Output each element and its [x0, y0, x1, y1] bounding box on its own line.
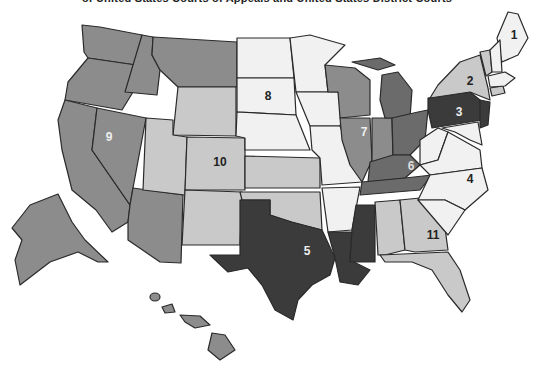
state-hawaii-2 [162, 304, 175, 313]
circuit-map: 1 2 3 4 5 6 7 8 9 10 11 [0, 0, 534, 372]
circuit-2-label: 2 [467, 74, 474, 88]
state-north-dakota [237, 38, 294, 78]
circuit-11-label: 11 [427, 228, 440, 242]
state-hawaii-4 [208, 333, 235, 360]
state-michigan [352, 58, 395, 70]
circuit-3-label: 3 [456, 105, 463, 119]
state-new-jersey [480, 100, 490, 128]
circuit-1-label: 1 [511, 28, 518, 42]
state-hawaii-3 [180, 315, 210, 328]
circuit-1-region[interactable] [488, 12, 528, 87]
state-connecticut [490, 86, 505, 96]
state-massachusetts [488, 72, 515, 87]
state-iowa [296, 92, 345, 126]
state-hawaii-1 [150, 293, 160, 301]
circuit-9-label: 9 [106, 130, 113, 144]
state-new-mexico [182, 190, 242, 245]
state-michigan-lower [380, 72, 412, 118]
state-kansas [245, 156, 320, 188]
state-montana [152, 37, 237, 87]
circuit-8-label: 8 [265, 89, 272, 103]
state-new-york [430, 55, 490, 100]
circuit-10-label: 10 [213, 155, 227, 169]
circuit-7-label: 7 [361, 125, 368, 139]
state-nebraska [236, 112, 310, 150]
state-florida [380, 252, 470, 312]
circuit-5-label: 5 [304, 244, 311, 258]
state-new-hampshire [490, 40, 502, 72]
state-arizona [128, 188, 183, 263]
circuit-4-label: 4 [467, 172, 474, 186]
circuit-6-label: 6 [408, 159, 415, 173]
state-wyoming [173, 87, 236, 136]
